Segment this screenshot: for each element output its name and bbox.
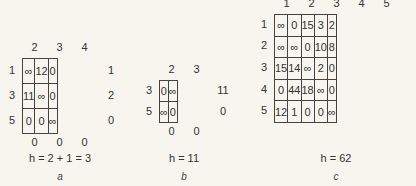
column-reduction: 0 [187,125,207,137]
matrix-cell: ∞ [314,79,327,101]
column-header: 3 [50,41,70,53]
matrix-cell: ∞ [275,36,288,58]
cost-matrix: 0∞∞0 [159,80,178,123]
matrix-row: ∞120 [23,59,58,84]
bound-caption: h = 11 [134,152,234,164]
column-reduction: 0 [162,125,182,137]
column-header: 2 [162,63,182,75]
row-header: 5 [139,105,159,117]
matrix-cell: 0 [168,102,177,123]
matrix-cell: ∞ [160,102,169,123]
matrix-cell: 0 [160,81,169,102]
matrix-cell: 12 [275,101,288,123]
row-reduction: 1 [101,64,121,76]
matrix-cell: ∞ [275,15,288,37]
matrix-row: 12100∞ [275,101,337,123]
matrix-row: ∞01532 [275,15,337,37]
panel-label: a [50,171,70,182]
column-reduction: 0 [50,136,70,148]
matrix-cell: 15 [301,15,314,37]
matrix-cell: ∞ [288,36,301,58]
matrix-cell: 0 [314,101,327,123]
column-header: 3 [187,63,207,75]
matrix-cell: ∞ [168,81,177,102]
column-header: 4 [352,0,372,9]
matrix-cell: 0 [301,101,314,123]
matrix-cell: ∞ [48,109,57,134]
matrix-cell: 0 [288,15,301,37]
matrix-cell: 0 [301,36,314,58]
matrix-cell: 8 [328,36,337,58]
matrix-cell: 11 [23,84,35,109]
matrix-row: ∞0 [160,102,178,123]
matrix-cell: 0 [48,84,57,109]
matrix-cell: 2 [328,15,337,37]
row-reduction: 0 [101,114,121,126]
matrix-cell: 10 [314,36,327,58]
matrix-cell: 1 [288,101,301,123]
bound-caption: h = 2 + 1 = 3 [10,152,110,164]
matrix-cell: 0 [275,79,288,101]
matrix-row: 04418∞0 [275,79,337,101]
matrix-row: 0∞ [160,81,178,102]
matrix-cell: 14 [288,58,301,80]
matrix-cell: 12 [35,59,48,84]
matrix-cell: 18 [301,79,314,101]
row-reduction: 2 [101,89,121,101]
matrix-cell: 2 [314,58,327,80]
column-header: 5 [377,0,397,9]
matrix-cell: 15 [275,58,288,80]
row-header: 3 [2,89,22,101]
column-header: 1 [277,0,297,9]
panel-label: b [174,171,194,182]
matrix-cell: ∞ [301,58,314,80]
row-reduction: 0 [213,105,233,117]
matrix-row: 00∞ [23,109,58,134]
row-header: 4 [254,83,274,95]
matrix-cell: ∞ [23,59,35,84]
column-header: 4 [75,41,95,53]
column-header: 2 [302,0,322,9]
matrix-row: 1514∞20 [275,58,337,80]
matrix-cell: 0 [48,59,57,84]
panel-label: c [326,171,346,182]
column-header: 2 [25,41,45,53]
matrix-cell: 44 [288,79,301,101]
column-reduction: 0 [25,136,45,148]
cost-matrix: ∞12011∞000∞ [22,58,58,134]
bound-caption: h = 62 [286,152,386,164]
column-header: 3 [327,0,347,9]
cost-matrix: ∞01532∞∞01081514∞2004418∞012100∞ [274,14,337,123]
matrix-cell: 0 [328,58,337,80]
row-header: 3 [139,84,159,96]
matrix-cell: ∞ [35,84,48,109]
column-reduction: 0 [75,136,95,148]
row-reduction: 11 [213,84,233,96]
row-header: 1 [2,64,22,76]
matrix-cell: 0 [35,109,48,134]
matrix-cell: ∞ [328,101,337,123]
row-header: 5 [2,114,22,126]
matrix-row: ∞∞0108 [275,36,337,58]
matrix-cell: 0 [328,79,337,101]
row-header: 3 [254,61,274,73]
row-header: 1 [254,18,274,30]
matrix-row: 11∞0 [23,84,58,109]
row-header: 5 [254,104,274,116]
matrix-cell: 0 [23,109,35,134]
row-header: 2 [254,39,274,51]
matrix-cell: 3 [314,15,327,37]
